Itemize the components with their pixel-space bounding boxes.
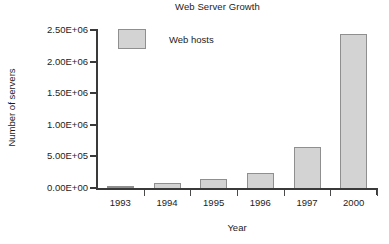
x-axis-tick-label-1993: 1993 — [98, 197, 142, 209]
y-axis-tick-mark — [90, 155, 97, 157]
bar-1995 — [200, 179, 227, 188]
chart-figure: Web Server Growth Number of servers 0.00… — [0, 0, 389, 244]
legend-swatch-web-hosts — [118, 29, 146, 49]
y-axis-tick-mark — [90, 187, 97, 189]
y-axis-tick-mark — [90, 124, 97, 126]
x-axis-tick-mark — [284, 190, 285, 196]
x-axis-tick-mark — [190, 190, 191, 196]
bar-2000 — [340, 34, 367, 188]
y-axis-tick-label: 1.00E+06 — [18, 119, 88, 130]
y-axis-tick-label: 2.50E+06 — [18, 24, 88, 35]
x-axis-tick-mark — [237, 190, 238, 196]
y-axis-tick-mark — [90, 92, 97, 94]
y-axis-tick-mark — [90, 61, 97, 63]
y-axis-label: Number of servers — [6, 38, 17, 178]
chart-title: Web Server Growth — [0, 1, 389, 13]
bar-1996 — [247, 173, 274, 188]
x-axis-tick-label-1995: 1995 — [192, 197, 236, 209]
x-axis-tick-label-1997: 1997 — [285, 197, 329, 209]
x-axis-tick-label-1994: 1994 — [145, 197, 189, 209]
y-axis-line — [96, 29, 98, 190]
y-axis-tick-label: 5.00E+05 — [18, 150, 88, 161]
x-axis-tick-label-2000: 2000 — [332, 197, 376, 209]
x-axis-tick-label-1996: 1996 — [238, 197, 282, 209]
x-axis-tick-mark — [330, 190, 331, 196]
x-axis-tick-mark — [144, 190, 145, 196]
y-axis-tick-label: 0.00E+00 — [18, 182, 88, 193]
y-axis-tick-label: 1.50E+06 — [18, 87, 88, 98]
bar-1994 — [154, 183, 181, 188]
y-axis-tick-mark — [90, 29, 97, 31]
legend-label-web-hosts: Web hosts — [169, 34, 214, 45]
x-axis-label: Year — [96, 222, 378, 233]
x-axis-tick-mark — [377, 190, 378, 196]
bar-1997 — [294, 147, 321, 188]
bar-1993 — [107, 186, 134, 188]
y-axis-label-container: Number of servers — [0, 36, 18, 192]
y-axis-tick-label: 2.00E+06 — [18, 56, 88, 67]
